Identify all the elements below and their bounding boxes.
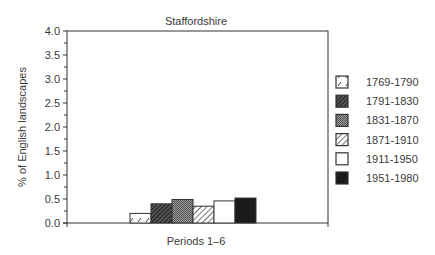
plot-frame xyxy=(67,31,328,223)
y-tick-label: 3.5 xyxy=(45,49,60,61)
legend-label: 1791-1830 xyxy=(366,95,419,107)
bars-group xyxy=(130,198,256,223)
y-tick-label: 0.0 xyxy=(45,217,60,229)
y-tick-label: 3.0 xyxy=(45,73,60,85)
y-tick-label: 1.0 xyxy=(45,169,60,181)
bar-1791-1830 xyxy=(151,204,172,223)
y-tick-label: 2.0 xyxy=(45,121,60,133)
legend-swatch xyxy=(336,153,348,165)
legend-swatch xyxy=(336,76,348,88)
bar-1911-1950 xyxy=(214,201,235,223)
legend-label: 1871-1910 xyxy=(366,134,419,146)
bar-1871-1910 xyxy=(193,206,214,223)
legend-swatch xyxy=(336,172,348,184)
bar-chart: Staffordshire 0.00.51.01.52.02.53.03.54.… xyxy=(0,0,435,255)
x-axis-label: Periods 1–6 xyxy=(167,235,226,247)
legend-swatch xyxy=(336,95,348,107)
chart-title: Staffordshire xyxy=(165,15,227,27)
bar-1769-1790 xyxy=(130,213,151,223)
legend-label: 1831-1870 xyxy=(366,114,419,126)
legend-swatch xyxy=(336,114,348,126)
y-axis-label: % of English landscapes xyxy=(16,67,28,187)
legend-label: 1911-1950 xyxy=(366,153,418,165)
y-axis: 0.00.51.01.52.02.53.03.54.0 xyxy=(45,25,67,229)
y-tick-label: 1.5 xyxy=(45,145,60,157)
legend-label: 1951-1980 xyxy=(366,172,419,184)
y-tick-label: 4.0 xyxy=(45,25,60,37)
legend-label: 1769-1790 xyxy=(366,76,419,88)
legend-swatch xyxy=(336,134,348,146)
y-tick-label: 2.5 xyxy=(45,97,60,109)
legend: 1769-17901791-18301831-18701871-19101911… xyxy=(336,76,419,184)
bar-1831-1870 xyxy=(172,199,193,223)
y-tick-label: 0.5 xyxy=(45,193,60,205)
bar-1951-1980 xyxy=(235,198,256,223)
